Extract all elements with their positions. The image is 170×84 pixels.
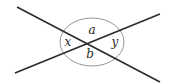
angle-label-b: b [86, 47, 94, 61]
angle-label-y: y [111, 35, 119, 49]
angle-label-a: a [88, 23, 95, 37]
angle-label-x: x [65, 35, 72, 49]
angle-diagram: a b x y [0, 0, 170, 84]
